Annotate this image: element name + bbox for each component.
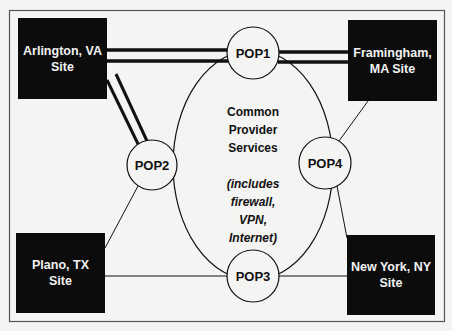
site-newyork: New York, NY Site	[347, 235, 435, 315]
pop2-label: POP2	[127, 140, 177, 190]
pop4-label: POP4	[299, 137, 351, 189]
site-label-line2: Site	[32, 273, 89, 289]
provider-title-line: Common	[203, 103, 303, 121]
site-label-line2: Site	[23, 59, 102, 75]
site-label-line1: Framingham,	[353, 45, 432, 61]
site-label-line1: New York, NY	[351, 259, 431, 275]
link-pop1-framingham	[278, 52, 348, 62]
provider-note-line: Internet)	[203, 229, 303, 247]
site-framingham: Framingham, MA Site	[348, 20, 437, 101]
pop1-label: POP1	[227, 27, 279, 79]
provider-note-line: firewall,	[203, 193, 303, 211]
provider-note-line: VPN,	[203, 211, 303, 229]
provider-title-line: Provider	[203, 121, 303, 139]
site-plano: Plano, TX Site	[16, 233, 105, 313]
link-newyork-pop4	[337, 186, 347, 238]
provider-title-line: Services	[203, 139, 303, 157]
link-pop2-plano	[105, 186, 138, 248]
provider-note-line: (includes	[203, 175, 303, 193]
site-label-line1: Arlington, VA	[23, 43, 102, 59]
link-pop4-framingham	[339, 101, 368, 141]
link-arlington-pop1	[107, 50, 228, 61]
pop3-label: POP3	[227, 250, 279, 302]
site-label-line2: MA Site	[353, 61, 432, 77]
link-arlington-pop2	[107, 74, 147, 146]
site-arlington: Arlington, VA Site	[18, 18, 107, 99]
provider-services-label: Common Provider Services (includes firew…	[203, 103, 303, 247]
site-label-line2: Site	[351, 275, 431, 291]
site-label-line1: Plano, TX	[32, 257, 89, 273]
